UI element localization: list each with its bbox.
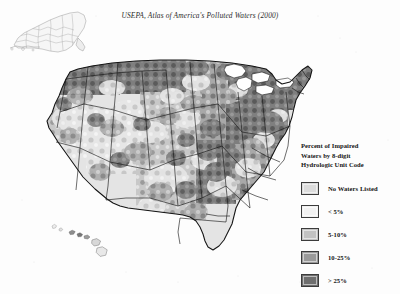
alaska-inset (10, 12, 86, 52)
conterminous-us (40, 55, 325, 260)
legend-title-line-2: Waters by 8-digit (301, 151, 399, 161)
legend-title: Percent of Impaired Waters by 8-digit Hy… (301, 141, 399, 170)
legend-item-gt-25: > 25% (301, 269, 399, 292)
map-legend: Percent of Impaired Waters by 8-digit Hy… (301, 141, 399, 292)
hawaii-inset (52, 224, 107, 256)
legend-swatch-gt-25 (301, 274, 319, 287)
legend-label-5-10: 5-10% (328, 231, 347, 238)
legend-swatch-5-10 (301, 228, 319, 241)
legend-label-10-25: 10-25% (328, 254, 350, 261)
legend-item-10-25: 10-25% (301, 246, 399, 269)
legend-label-gt-25: > 25% (328, 277, 347, 284)
legend-item-lt-5: < 5% (301, 200, 399, 223)
legend-swatch-lt-5 (301, 205, 319, 218)
legend-title-line-1: Percent of Impaired (301, 141, 399, 151)
legend-label-lt-5: < 5% (328, 208, 344, 215)
legend-item-5-10: 5-10% (301, 223, 399, 246)
legend-items: No Waters Listed < 5% 5-10% 10-25% > 25% (301, 177, 399, 292)
map-figure: USEPA, Atlas of America's Polluted Water… (0, 0, 400, 294)
legend-label-no-waters-listed: No Waters Listed (328, 185, 378, 192)
legend-title-line-3: Hydrologic Unit Code (301, 160, 399, 170)
legend-swatch-no-waters-listed (301, 182, 319, 195)
legend-item-no-waters-listed: No Waters Listed (301, 177, 399, 200)
legend-swatch-10-25 (301, 251, 319, 264)
